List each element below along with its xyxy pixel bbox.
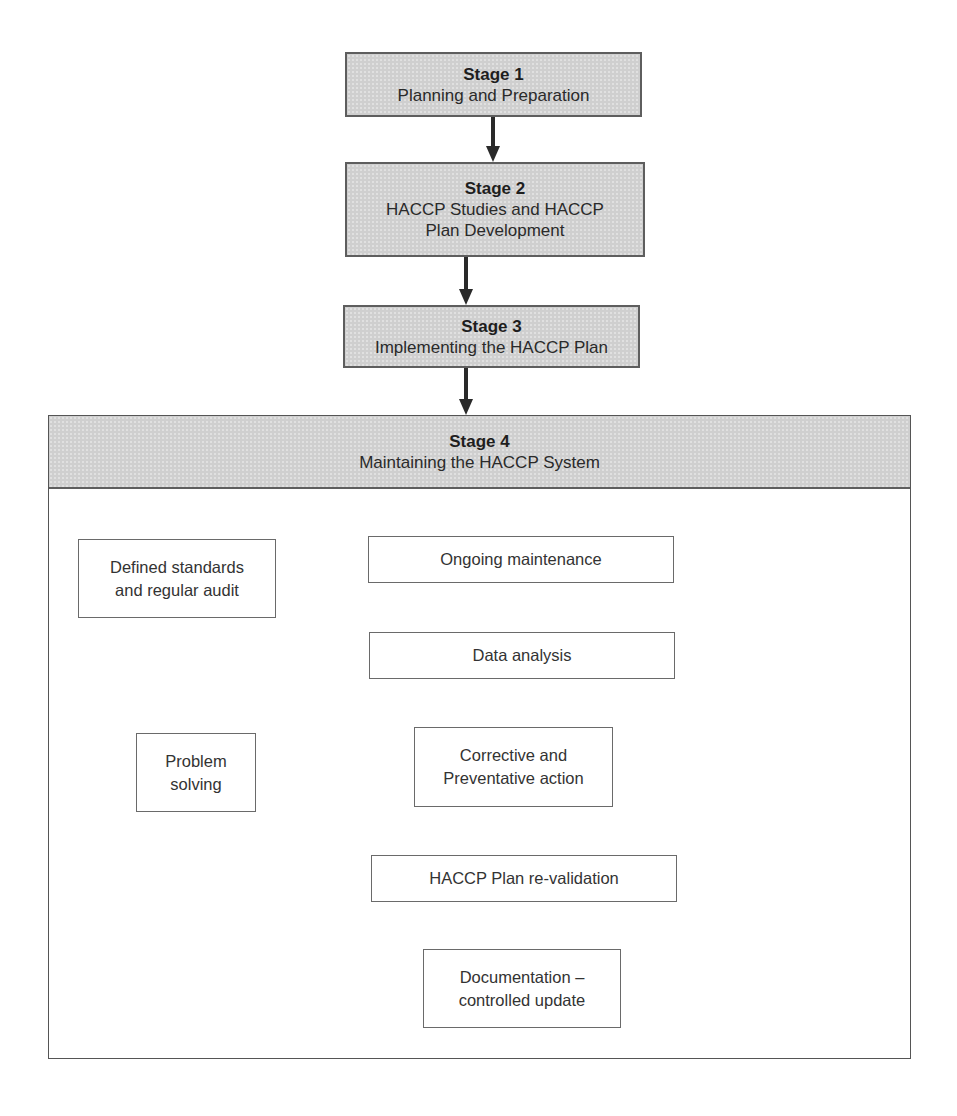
stage-2-title: Stage 2 — [465, 178, 525, 199]
stage-4-subtitle: Maintaining the HACCP System — [359, 452, 600, 473]
defined-standards-box: Defined standards and regular audit — [78, 539, 276, 618]
problem-solving-line-2: solving — [170, 773, 221, 796]
defined-standards-line-1: Defined standards — [110, 556, 244, 579]
stage-arrow-3-4 — [459, 368, 473, 415]
stage-3-title: Stage 3 — [461, 316, 521, 337]
data-analysis-label: Data analysis — [472, 644, 571, 667]
data-analysis-box: Data analysis — [369, 632, 675, 679]
ongoing-maintenance-box: Ongoing maintenance — [368, 536, 674, 583]
documentation-line-1: Documentation – — [460, 966, 585, 989]
stage-2-subtitle-line-2: Plan Development — [426, 220, 565, 241]
stage-3-subtitle: Implementing the HACCP Plan — [375, 337, 608, 358]
stage-arrow-1-2 — [486, 117, 500, 162]
plan-revalidation-label: HACCP Plan re-validation — [429, 867, 619, 890]
corrective-action-line-1: Corrective and — [460, 744, 567, 767]
documentation-line-2: controlled update — [459, 989, 586, 1012]
problem-solving-box: Problem solving — [136, 733, 256, 812]
defined-standards-line-2: and regular audit — [115, 579, 239, 602]
corrective-action-line-2: Preventative action — [443, 767, 583, 790]
ongoing-maintenance-label: Ongoing maintenance — [440, 548, 601, 571]
stage-1-box: Stage 1 Planning and Preparation — [345, 52, 642, 117]
stage-1-subtitle: Planning and Preparation — [398, 85, 590, 106]
stage-4-title: Stage 4 — [449, 431, 509, 452]
stage-1-title: Stage 1 — [463, 64, 523, 85]
stage-2-box: Stage 2 HACCP Studies and HACCP Plan Dev… — [345, 162, 645, 257]
documentation-box: Documentation – controlled update — [423, 949, 621, 1028]
stage-arrow-2-3 — [459, 257, 473, 305]
plan-revalidation-box: HACCP Plan re-validation — [371, 855, 677, 902]
stage-4-header: Stage 4 Maintaining the HACCP System — [49, 416, 910, 489]
stage-3-box: Stage 3 Implementing the HACCP Plan — [343, 305, 640, 368]
problem-solving-line-1: Problem — [165, 750, 226, 773]
corrective-action-box: Corrective and Preventative action — [414, 727, 613, 807]
stage-2-subtitle-line-1: HACCP Studies and HACCP — [386, 199, 604, 220]
